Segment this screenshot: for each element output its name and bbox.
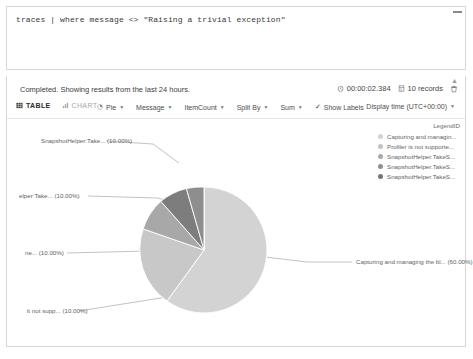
legend-item[interactable]: SnapshotHelper.TakeS...: [378, 151, 462, 161]
grid-icon: [16, 102, 23, 109]
legend-item[interactable]: Capturing and managin...: [378, 131, 462, 141]
legend-item-label: SnapshotHelper.TakeS...: [387, 173, 455, 180]
chart-controls: Pie ▼ Message ▼ ItemCount ▼ Split By ▼ S…: [97, 103, 364, 111]
table-records-icon: [398, 85, 405, 92]
chevron-down-icon: ▼: [263, 105, 268, 110]
timer-icon: [337, 85, 344, 92]
resize-handle-icon[interactable]: [453, 11, 462, 13]
chart-type-label: Pie: [106, 104, 116, 111]
y-axis-select[interactable]: ItemCount ▼: [184, 104, 224, 111]
record-count: 10 records: [398, 84, 443, 93]
show-labels-label: Show Labels: [324, 104, 364, 111]
bar-chart-icon: [62, 102, 69, 109]
legend-item-label: Capturing and managin...: [387, 133, 456, 140]
legend-swatch-icon: [378, 164, 383, 169]
trash-icon[interactable]: [450, 85, 458, 93]
tab-table[interactable]: TABLE: [16, 102, 51, 109]
display-time-label: Display time (UTC+00:00): [366, 103, 447, 110]
view-toggle-group: TABLE CHART: [16, 102, 97, 109]
records-text: 10 records: [408, 84, 443, 93]
chevron-down-icon: ▼: [167, 105, 172, 110]
tab-table-label: TABLE: [26, 102, 51, 109]
pie-label-3: ne... (10.00%): [25, 249, 64, 256]
show-labels-checkbox[interactable]: ✓ Show Labels: [315, 103, 364, 111]
tab-chart[interactable]: CHART: [62, 102, 98, 109]
status-message: Completed. Showing results from the last…: [20, 85, 190, 94]
aggregation-label: Sum: [280, 104, 294, 111]
status-metrics: 00:00:02.384 10 records: [337, 84, 458, 93]
chevron-down-icon: ▼: [119, 105, 124, 110]
results-panel: ▲ Completed. Showing results from the la…: [6, 76, 466, 347]
pie-chart-icon: [97, 104, 103, 110]
display-time-select[interactable]: Display time (UTC+00:00) ▼: [366, 103, 455, 110]
legend-title: LegendID: [378, 122, 462, 129]
duration-text: 00:00:02.384: [347, 84, 391, 93]
query-duration: 00:00:02.384: [337, 84, 391, 93]
legend-item[interactable]: Profiler is not supporte...: [378, 141, 462, 151]
legend-item-label: SnapshotHelper.TakeS...: [387, 153, 455, 160]
x-axis-select[interactable]: Message ▼: [136, 104, 172, 111]
pie-label-0: Capturing and managing the bl... (60.00%…: [356, 258, 473, 265]
query-editor[interactable]: traces | where message <> "Raising a tri…: [6, 6, 466, 70]
legend-item-label: SnapshotHelper.TakeS...: [387, 163, 455, 170]
pie-label-4: it not supp... (10.00%): [27, 307, 88, 314]
legend-item[interactable]: SnapshotHelper.TakeS...: [378, 161, 462, 171]
legend-swatch-icon: [378, 134, 383, 139]
tab-chart-label: CHART: [72, 102, 98, 109]
pie-label-1: SnapshotHelper:Take... (10.00%): [41, 137, 132, 144]
legend-swatch-icon: [378, 174, 383, 179]
query-text[interactable]: traces | where message <> "Raising a tri…: [16, 15, 286, 24]
legend-swatch-icon: [378, 154, 383, 159]
legend-item-label: Profiler is not supporte...: [387, 143, 454, 150]
aggregation-select[interactable]: Sum ▼: [280, 104, 302, 111]
y-axis-label: ItemCount: [184, 104, 216, 111]
chart-area: SnapshotHelper:Take... (10.00%) elper:Ta…: [7, 119, 465, 346]
split-by-select[interactable]: Split By ▼: [237, 104, 269, 111]
legend-swatch-icon: [378, 144, 383, 149]
pie-label-2: elper:Take... (10.00%): [19, 192, 80, 199]
chevron-down-icon: ▼: [220, 105, 225, 110]
check-icon: ✓: [315, 103, 321, 111]
legend: LegendID Capturing and managin... Profil…: [378, 122, 462, 181]
x-axis-label: Message: [136, 104, 164, 111]
status-bar: Completed. Showing results from the last…: [7, 84, 465, 100]
split-by-label: Split By: [237, 104, 261, 111]
chevron-down-icon: ▼: [450, 104, 455, 109]
legend-item[interactable]: SnapshotHelper.TakeS...: [378, 171, 462, 181]
chart-toolbar: TABLE CHART Pie ▼ Message ▼: [7, 101, 465, 119]
chevron-down-icon: ▼: [298, 105, 303, 110]
chart-type-select[interactable]: Pie ▼: [97, 104, 124, 111]
